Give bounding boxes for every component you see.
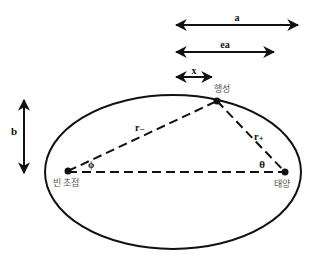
label-empty-focus: 빈 초점 <box>53 177 80 188</box>
semi-minor-axis-arrow: b <box>11 100 24 173</box>
semi-major-axis-arrow: a <box>176 12 298 25</box>
label-x: x <box>192 65 197 76</box>
planet-point <box>214 98 221 105</box>
label-phi: ϕ <box>88 159 94 170</box>
label-sun: 태양 <box>274 179 290 189</box>
orbit-diagram: a ea x b r₋ r₊ ϕ θ 행성 태양 빈 초점 <box>0 0 318 261</box>
label-a: a <box>235 12 240 23</box>
x-offset-arrow: x <box>176 65 212 77</box>
focal-distance-arrow: ea <box>176 39 274 52</box>
label-r-minus: r₋ <box>135 122 145 133</box>
label-r-plus: r₊ <box>254 131 264 142</box>
label-theta: θ <box>259 158 265 170</box>
label-b: b <box>11 125 17 137</box>
sun-point <box>282 169 289 176</box>
empty-focus-point <box>65 168 72 175</box>
label-ea: ea <box>220 39 229 50</box>
label-planet: 행성 <box>214 83 230 94</box>
